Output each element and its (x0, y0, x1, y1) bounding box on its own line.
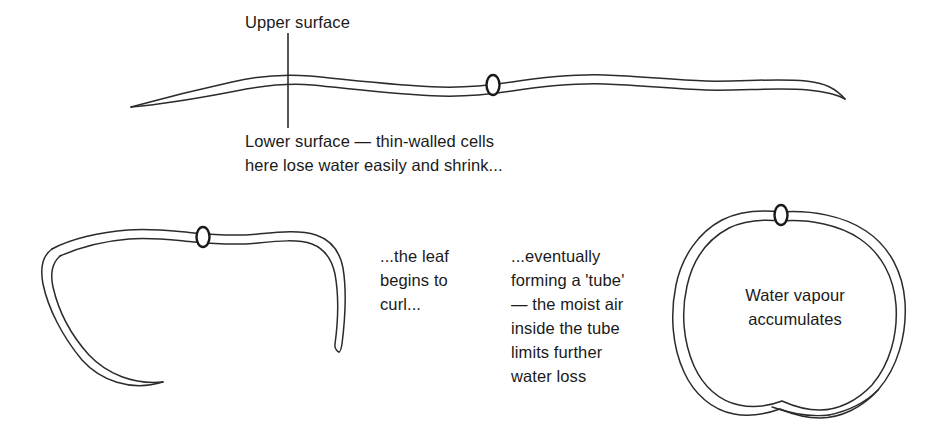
curled-leaf-left-flank-outer (42, 249, 163, 386)
stoma-icon (197, 227, 210, 247)
tube-lower-tip-right (829, 390, 878, 415)
curled-leaf-panel (42, 227, 346, 386)
figure-canvas: Upper surface Lower surface — thin-walle… (0, 0, 946, 438)
curled-leaf-inner-surface (60, 238, 339, 352)
label-upper-surface: Upper surface (245, 10, 350, 34)
label-lower-surface: Lower surface — thin-walled cells here l… (245, 129, 503, 177)
flat-leaf-panel (131, 33, 845, 128)
curled-leaf-left-flank-inner (52, 256, 163, 382)
curled-leaf-outer-surface (52, 229, 345, 352)
leaf-curling-diagram (0, 0, 946, 438)
label-leaf-begins-to-curl: ...the leaf begins to curl... (380, 244, 449, 316)
stoma-icon (775, 205, 788, 225)
label-water-vapour-accumulates: Water vapour accumulates (712, 283, 878, 331)
label-tube-forming: ...eventually forming a 'tube' — the moi… (511, 244, 624, 388)
stoma-icon (487, 75, 500, 95)
